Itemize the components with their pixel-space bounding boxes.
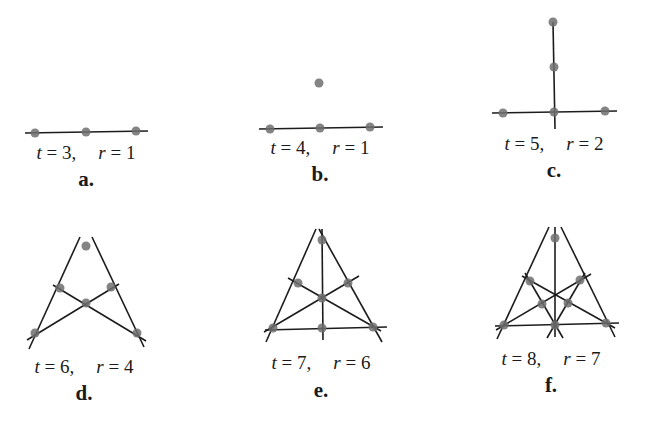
t-value: t = 6, [35, 356, 75, 377]
panel-d-params: t = 6,r = 4 [35, 356, 134, 378]
point [499, 109, 508, 118]
panel-b-caption: b. [312, 162, 329, 187]
point [318, 324, 327, 333]
panel-a-caption: a. [78, 167, 94, 192]
line [288, 278, 381, 331]
r-value: r = 7 [563, 348, 600, 369]
panel-b-params: t = 4,r = 1 [271, 137, 370, 159]
point [269, 324, 278, 333]
point [601, 107, 610, 116]
panel-a-params: t = 3,r = 1 [37, 142, 136, 164]
panel-d [27, 237, 146, 349]
t-value: t = 8, [502, 348, 542, 369]
point [133, 329, 142, 338]
point [564, 299, 573, 308]
panel-f-caption: f. [545, 373, 557, 398]
panel-e [264, 229, 387, 342]
t-value: t = 3, [37, 142, 77, 163]
point [366, 123, 375, 132]
r-value: r = 6 [333, 352, 370, 373]
point [132, 127, 141, 136]
panel-e-caption: e. [314, 378, 329, 403]
point [526, 277, 535, 286]
point [82, 242, 91, 251]
point [31, 129, 40, 138]
r-value: r = 4 [96, 356, 133, 377]
panel-f [495, 227, 619, 339]
panel-d-caption: d. [76, 381, 93, 406]
r-value: r = 1 [332, 137, 369, 158]
line [53, 285, 146, 341]
point [266, 125, 275, 134]
point [550, 108, 559, 117]
panel-b [259, 79, 383, 134]
point [315, 79, 324, 88]
panel-c [492, 18, 617, 130]
r-value: r = 2 [566, 133, 603, 154]
point [294, 279, 303, 288]
point [107, 283, 116, 292]
point [549, 18, 558, 27]
point [318, 236, 327, 245]
t-value: t = 5, [505, 133, 545, 154]
point [576, 276, 585, 285]
line [322, 229, 323, 340]
point [538, 300, 547, 309]
panel-e-params: t = 7,r = 6 [272, 352, 371, 374]
panel-c-params: t = 5,r = 2 [505, 133, 604, 155]
point [318, 294, 327, 303]
point [369, 323, 378, 332]
point [316, 124, 325, 133]
panel-f-params: t = 8,r = 7 [502, 348, 601, 370]
point [602, 319, 611, 328]
panel-c-caption: c. [547, 158, 562, 183]
t-value: t = 4, [271, 137, 311, 158]
point [344, 279, 353, 288]
point [82, 299, 91, 308]
point [82, 128, 91, 137]
point [31, 329, 40, 338]
point [500, 321, 509, 330]
t-value: t = 7, [272, 352, 312, 373]
point [56, 284, 65, 293]
r-value: r = 1 [98, 142, 135, 163]
panel-a [25, 127, 148, 138]
point [551, 321, 560, 330]
point [550, 63, 559, 72]
line [27, 284, 119, 340]
point [551, 234, 560, 243]
